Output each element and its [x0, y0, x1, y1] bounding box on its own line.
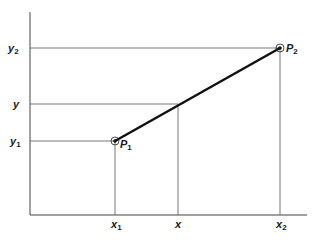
label-y2: y2 — [7, 42, 19, 56]
label-p2: P2 — [286, 42, 298, 56]
label-x2: x2 — [275, 218, 287, 232]
interpolation-diagram: y2 y y1 x1 x x2 P1 P2 — [0, 0, 323, 242]
label-x1: x1 — [110, 218, 122, 232]
label-p1: P1 — [120, 138, 132, 152]
label-y: y — [12, 98, 20, 110]
label-x: x — [174, 218, 182, 230]
label-y1: y1 — [9, 135, 21, 149]
segment-p1-p2 — [115, 48, 280, 141]
